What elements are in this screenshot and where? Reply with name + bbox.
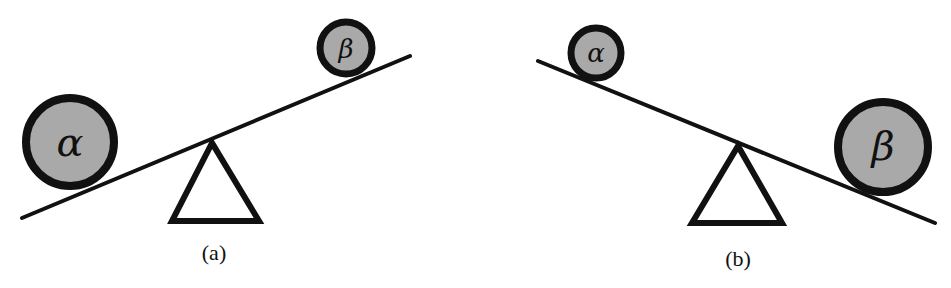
diagram-canvas: α β α β	[0, 0, 951, 288]
panel-b: α β	[538, 28, 935, 223]
ball-beta-large: β	[838, 102, 928, 192]
alpha-symbol: α	[587, 38, 605, 68]
ball-beta-small: β	[320, 22, 372, 74]
seesaw-figure: α β α β (a) (b)	[0, 0, 951, 288]
ball-alpha-large: α	[26, 98, 114, 186]
caption-b: (b)	[725, 246, 751, 272]
beta-symbol: β	[337, 34, 353, 64]
alpha-symbol: α	[56, 119, 83, 165]
beta-symbol: β	[869, 123, 894, 169]
fulcrum-a	[172, 143, 259, 221]
panel-a: α β	[22, 22, 410, 221]
fulcrum-b	[692, 146, 782, 223]
caption-a: (a)	[202, 240, 226, 266]
ball-alpha-small: α	[571, 28, 621, 78]
